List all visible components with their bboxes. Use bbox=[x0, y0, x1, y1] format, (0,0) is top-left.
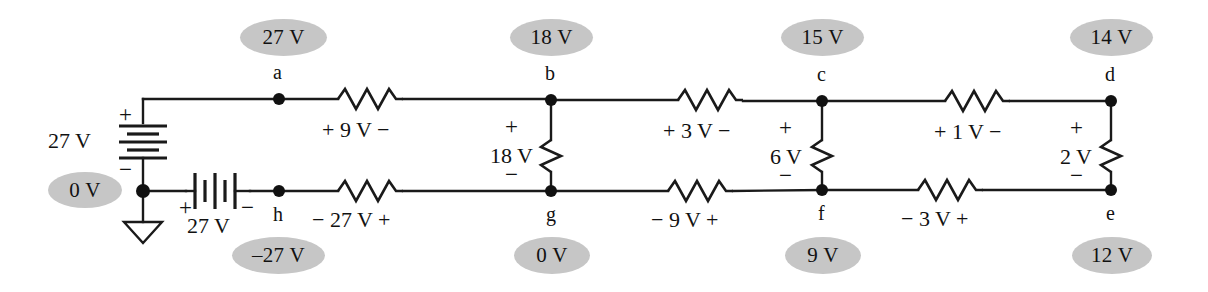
resistor-cf-icon bbox=[812, 140, 832, 172]
node-dot-ground bbox=[136, 184, 150, 198]
source-vertical-minus-sign: − bbox=[119, 158, 132, 181]
element-label-r-fe: − 3 V + bbox=[901, 208, 968, 230]
voltage-bubble-b: 18 V bbox=[510, 19, 593, 56]
source-horizontal-plus-sign: + bbox=[179, 196, 192, 219]
resistor-gf-icon bbox=[668, 181, 733, 201]
ground-icon bbox=[124, 222, 162, 243]
voltage-bubble-f: 9 V bbox=[785, 237, 861, 274]
voltage-bubble-g: 0 V bbox=[514, 237, 590, 274]
node-dot-e bbox=[1105, 184, 1117, 196]
resistor-cd-icon bbox=[945, 91, 1010, 111]
voltage-bubble-h: –27 V bbox=[232, 237, 325, 274]
resistor-fe-icon bbox=[918, 180, 983, 200]
node-label-c: c bbox=[817, 64, 826, 84]
node-label-d: d bbox=[1105, 64, 1115, 84]
source-label-horizontal: 27 V bbox=[187, 215, 230, 237]
voltage-bubble-c: 15 V bbox=[781, 19, 864, 56]
source-vertical-plus-sign: + bbox=[119, 103, 132, 126]
node-dot-b bbox=[545, 94, 557, 106]
node-dot-a bbox=[273, 93, 285, 105]
element-label-r-bc: + 3 V − bbox=[663, 120, 730, 142]
resistor-ab-icon bbox=[338, 89, 403, 109]
element-label-r-cd: + 1 V − bbox=[934, 121, 1001, 143]
node-label-e: e bbox=[1106, 203, 1115, 223]
shunt-de-plus-sign: + bbox=[1070, 116, 1083, 139]
node-dot-g bbox=[545, 185, 557, 197]
resistor-bg-icon bbox=[541, 140, 561, 172]
shunt-cf-minus-sign: − bbox=[779, 164, 792, 187]
circuit-schematic-svg bbox=[0, 0, 1208, 292]
shunt-bg-minus-sign: − bbox=[505, 163, 518, 186]
shunt-de-minus-sign: − bbox=[1070, 164, 1083, 187]
source-label-vertical: 27 V bbox=[48, 130, 91, 152]
voltage-bubble-a: 27 V bbox=[240, 19, 327, 56]
node-dot-f bbox=[816, 184, 828, 196]
node-label-g: g bbox=[546, 204, 556, 224]
node-dot-d bbox=[1105, 95, 1117, 107]
voltage-bubble-ground: 0 V bbox=[48, 172, 122, 208]
node-label-a: a bbox=[273, 62, 282, 82]
circuit-figure: a b c d e f g h 27 V 18 V 15 V 14 V 12 V… bbox=[0, 0, 1208, 292]
shunt-bg-plus-sign: + bbox=[505, 115, 518, 138]
node-dot-c bbox=[816, 95, 828, 107]
source-horizontal-minus-sign: − bbox=[241, 196, 254, 219]
node-dot-h bbox=[273, 185, 285, 197]
element-label-r-hg: − 27 V + bbox=[312, 209, 390, 231]
resistor-hg-icon bbox=[338, 181, 403, 201]
voltage-bubble-e: 12 V bbox=[1072, 237, 1152, 274]
element-label-r-gf: − 9 V + bbox=[651, 209, 718, 231]
node-label-f: f bbox=[818, 203, 825, 223]
node-label-b: b bbox=[545, 63, 555, 83]
resistor-bc-icon bbox=[678, 90, 743, 110]
node-label-h: h bbox=[273, 204, 283, 224]
wire-to-f bbox=[733, 190, 822, 191]
resistor-de-icon bbox=[1101, 140, 1121, 172]
element-label-r-ab: + 9 V − bbox=[322, 119, 389, 141]
shunt-cf-plus-sign: + bbox=[779, 116, 792, 139]
voltage-bubble-d: 14 V bbox=[1070, 19, 1153, 56]
